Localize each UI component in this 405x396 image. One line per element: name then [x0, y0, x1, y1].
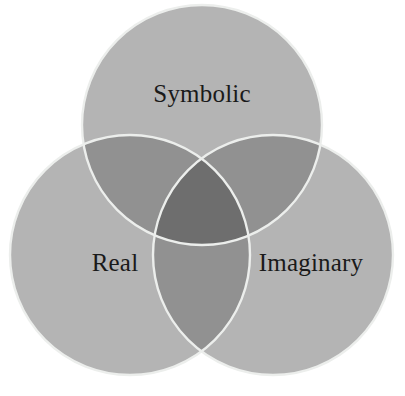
venn-label-imaginary: Imaginary: [259, 249, 364, 276]
venn-diagram-figure: Symbolic Real Imaginary: [0, 0, 405, 396]
venn-label-symbolic: Symbolic: [153, 80, 250, 107]
venn-diagram-canvas: Symbolic Real Imaginary: [0, 0, 405, 396]
venn-label-real: Real: [92, 249, 139, 276]
